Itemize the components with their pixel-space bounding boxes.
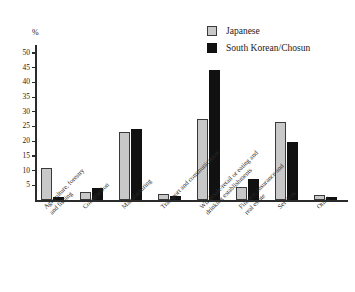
- y-tick-label: 40: [23, 77, 31, 86]
- y-tick-label: 50: [23, 48, 31, 57]
- bar-group: [313, 47, 352, 200]
- bar-group: [118, 47, 157, 200]
- y-tick-label: 20: [23, 136, 31, 145]
- y-tick-label: 10: [23, 166, 31, 175]
- y-tick-label: 15: [23, 151, 31, 160]
- bar-japanese: [275, 122, 286, 200]
- y-tick-label: 45: [23, 63, 31, 72]
- legend-item-japanese: Japanese: [207, 22, 310, 39]
- legend-item-south-korean-chosun: South Korean/Chosun: [207, 39, 310, 56]
- legend-label-south-korean-chosun: South Korean/Chosun: [226, 43, 310, 53]
- y-axis-unit-label: %: [32, 28, 39, 37]
- y-tick-label: 35: [23, 92, 31, 101]
- legend: Japanese South Korean/Chosun: [207, 22, 310, 56]
- x-axis-line: [35, 200, 348, 202]
- y-tick-label: 25: [23, 121, 31, 130]
- y-tick-label: 30: [23, 107, 31, 116]
- bar-chart: % 5101520253035404550 Agriculture, fores…: [0, 0, 355, 292]
- legend-swatch-japanese: [207, 26, 217, 36]
- y-tick-label: 5: [26, 180, 30, 189]
- legend-label-japanese: Japanese: [226, 26, 260, 36]
- bar-south-korean-chosun: [209, 70, 220, 200]
- bar-japanese: [119, 132, 130, 200]
- legend-swatch-south-korean-chosun: [207, 43, 217, 53]
